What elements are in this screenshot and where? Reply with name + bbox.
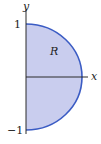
y-axis-label: y bbox=[22, 0, 30, 13]
half-disk-diagram: y x 1 −1 R bbox=[0, 0, 101, 144]
region-label: R bbox=[49, 45, 58, 58]
tick-label-bottom: −1 bbox=[7, 124, 23, 137]
tick-label-top: 1 bbox=[14, 18, 21, 31]
x-axis-label: x bbox=[91, 70, 98, 83]
